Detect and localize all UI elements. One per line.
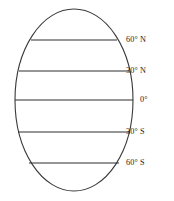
latitude-label-30s: 30° S [126,127,145,136]
latitude-label-60s: 60° S [126,158,145,167]
latitude-diagram: 60° N 30° N 0° 30° S 60° S [0,0,174,201]
latitude-label-60n: 60° N [126,35,146,44]
latitude-label-30n: 30° N [126,66,146,75]
latitude-label-equator: 0° [140,95,148,104]
globe-diagram-canvas: 60° N 30° N 0° 30° S 60° S [0,0,174,201]
